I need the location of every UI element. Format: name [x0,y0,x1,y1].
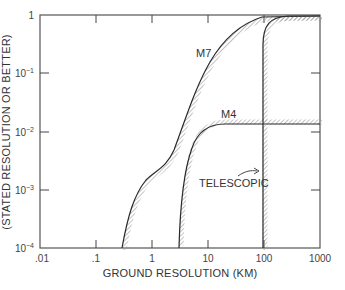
curve-m7 [122,16,322,250]
label-m7: M7 [196,47,211,59]
x-ticks [96,15,264,248]
x-axis-title: GROUND RESOLUTION (KM) [103,267,258,279]
x-tick-label: 10 [202,253,214,264]
y-tick-label: 1 [28,10,34,21]
x-tick-label: 100 [256,253,273,264]
label-m4: M4 [221,108,236,120]
y-tick-label: 10−4 [15,242,34,254]
y-tick-labels: 1 10−1 10−2 10−3 10−4 [15,10,35,254]
y-tick-label: 10−1 [15,67,34,79]
curve-telescopic [263,16,322,250]
x-tick-label: .1 [92,253,101,264]
y-tick-label: 10−2 [15,126,34,138]
x-tick-labels: .01 .1 1 10 100 1000 [35,253,332,264]
x-tick-label: 1 [149,253,155,264]
y-axis-title: (STATED RESOLUTION OR BETTER) [0,34,12,229]
y-tick-label: 10−3 [15,184,34,196]
plot-frame [40,15,320,248]
telescopic-arrow-icon [238,168,259,176]
y-ticks [40,73,320,190]
label-telescopic: TELESCOPIC [199,177,269,189]
x-tick-label: .01 [35,253,49,264]
x-tick-label: 1000 [309,253,332,264]
chart: .01 .1 1 10 100 1000 1 10−1 10−2 10−3 10… [0,0,345,290]
